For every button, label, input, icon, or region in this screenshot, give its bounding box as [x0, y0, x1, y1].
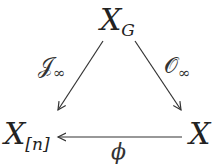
label-top-to-left: 𝒥∞ — [38, 55, 66, 81]
node-left-sub: [n] — [25, 134, 49, 154]
label-right-to-left: ϕ — [111, 141, 126, 163]
node-right-main: X — [189, 116, 210, 151]
node-right: X — [189, 119, 210, 149]
node-left-main: X — [4, 116, 25, 151]
node-top-sub: G — [121, 20, 135, 40]
label-top-to-right: 𝒪∞ — [164, 55, 191, 81]
label-top-to-left-sub: ∞ — [53, 64, 66, 82]
node-left: X[n] — [4, 119, 50, 153]
label-top-to-left-symbol: 𝒥 — [38, 53, 53, 78]
node-top-main: X — [100, 2, 121, 37]
node-top: XG — [100, 5, 135, 39]
label-top-to-right-symbol: 𝒪 — [164, 53, 178, 78]
label-right-to-left-symbol: ϕ — [111, 139, 126, 164]
label-top-to-right-sub: ∞ — [178, 64, 191, 82]
